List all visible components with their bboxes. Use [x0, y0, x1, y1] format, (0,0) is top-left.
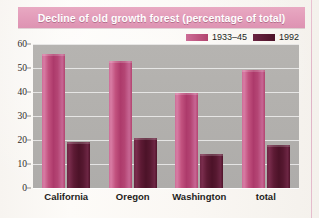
figure-page: Decline of old growth forest (percentage…	[0, 0, 319, 218]
gridline	[33, 188, 299, 189]
y-axis-tick-label: 40	[18, 87, 28, 97]
y-axis-tick-mark	[27, 164, 31, 165]
bar-highlight	[242, 70, 265, 72]
y-axis-tick-label: 50	[18, 63, 28, 73]
bar-group	[33, 44, 100, 188]
bar-group	[100, 44, 167, 188]
x-axis-category-label: total	[256, 191, 276, 202]
x-axis: CaliforniaOregonWashingtontotal	[33, 191, 299, 211]
bar	[42, 54, 65, 188]
y-axis: 6050403020100	[0, 44, 31, 188]
y-axis-tick-label: 20	[18, 135, 28, 145]
legend-swatch-icon-1933-45	[186, 34, 208, 41]
bar-groups	[33, 44, 299, 188]
bar	[200, 154, 223, 188]
bar-group	[166, 44, 233, 188]
bar-group	[233, 44, 300, 188]
bar	[67, 142, 90, 188]
chart-title-band: Decline of old growth forest (percentage…	[18, 7, 305, 28]
x-axis-category-label: Washington	[172, 191, 226, 202]
y-axis-tick-mark	[27, 92, 31, 93]
chart-legend: 1933–45 1992	[186, 31, 299, 43]
page-title: Decline of old growth forest (percentage…	[18, 7, 305, 28]
y-axis-tick-label: 60	[18, 39, 28, 49]
bar-highlight	[67, 142, 90, 144]
bar-highlight	[267, 145, 290, 147]
plot-area	[33, 44, 299, 188]
legend-item-1933-45: 1933–45	[186, 32, 247, 42]
legend-item-1992: 1992	[253, 32, 299, 42]
y-axis-tick-mark	[27, 44, 31, 45]
bar	[175, 93, 198, 188]
page-margin-rule	[311, 0, 312, 218]
bar-highlight	[200, 154, 223, 156]
bar	[267, 145, 290, 188]
y-axis-tick-label: 10	[18, 159, 28, 169]
y-axis-tick-mark	[27, 116, 31, 117]
bar-highlight	[134, 138, 157, 140]
y-axis-tick-mark	[27, 68, 31, 69]
bar-highlight	[109, 61, 132, 63]
legend-label-1933-45: 1933–45	[212, 32, 247, 42]
bar	[134, 138, 157, 188]
bar-highlight	[42, 54, 65, 56]
legend-label-1992: 1992	[279, 32, 299, 42]
y-axis-tick-mark	[27, 140, 31, 141]
legend-swatch-icon-1992	[253, 34, 275, 41]
y-axis-tick-mark	[27, 188, 31, 189]
x-axis-category-label: Oregon	[116, 191, 150, 202]
y-axis-tick-label: 30	[18, 111, 28, 121]
bar	[242, 70, 265, 188]
bar	[109, 61, 132, 188]
x-axis-category-label: California	[44, 191, 88, 202]
bar-highlight	[175, 93, 198, 95]
